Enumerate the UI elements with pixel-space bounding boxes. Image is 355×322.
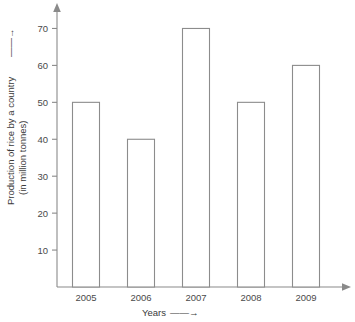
y-tick-label: 40	[37, 134, 48, 145]
x-axis-arrow-icon	[342, 283, 351, 291]
chart-canvas: 10203040506070 20052006200720082009 Year…	[0, 0, 355, 322]
y-axis-title-group: Production of rice by a country ——→ (in …	[5, 29, 28, 206]
y-tick-label: 50	[37, 97, 48, 108]
x-tick-label: 2009	[295, 292, 316, 303]
bar	[128, 139, 155, 287]
bar	[183, 28, 210, 287]
bar	[293, 65, 320, 287]
bar	[73, 102, 100, 287]
x-tick-label: 2008	[240, 292, 261, 303]
x-tick-label-group: 20052006200720082009	[75, 292, 316, 303]
x-tick-label: 2006	[130, 292, 151, 303]
x-axis-title-arrow-icon: ——→	[170, 307, 199, 318]
y-axis-title-text: Production of rice by a country	[5, 76, 16, 205]
bar	[238, 102, 265, 287]
x-tick-label: 2005	[75, 292, 96, 303]
y-axis-title-arrow-icon: ——→	[5, 29, 16, 58]
y-axis-group	[53, 3, 61, 287]
y-axis-arrow-icon	[53, 3, 61, 12]
y-tick-label: 30	[37, 171, 48, 182]
x-tick-label: 2007	[185, 292, 206, 303]
x-axis-title-text: Years	[142, 307, 166, 318]
x-axis-title-group: Years ——→	[142, 307, 198, 318]
y-tick-label: 70	[37, 23, 48, 34]
y-tick-label: 10	[37, 245, 48, 256]
bar-series-group	[73, 28, 320, 287]
bar-chart-figure: 10203040506070 20052006200720082009 Year…	[0, 0, 355, 322]
y-tick-label: 20	[37, 208, 48, 219]
y-tick-label: 60	[37, 60, 48, 71]
y-axis-title-units-text: (in million tonnes)	[17, 121, 28, 195]
y-tick-group: 10203040506070	[37, 23, 57, 256]
